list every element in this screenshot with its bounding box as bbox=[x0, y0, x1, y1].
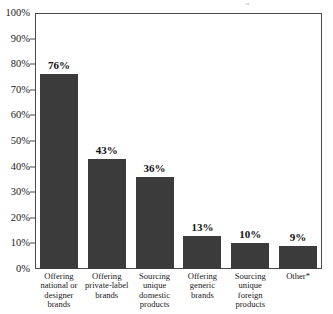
x-axis-category-label: Offeringnational ordesignerbrands bbox=[35, 272, 83, 309]
y-axis-tick-label: 90% bbox=[0, 33, 30, 44]
x-axis-category-label-line: products bbox=[131, 300, 179, 309]
bars-layer: 76%43%36%13%10%9% bbox=[35, 13, 322, 269]
x-axis-category-label: Other* bbox=[274, 272, 322, 281]
bar bbox=[40, 74, 78, 269]
bar-group: 13% bbox=[183, 13, 221, 269]
y-axis-labels: 100%90%80%70%60%50%40%30%20%10%0% bbox=[0, 0, 30, 314]
x-axis-category-labels: Offeringnational ordesignerbrandsOfferin… bbox=[35, 272, 322, 314]
bar-value-label: 9% bbox=[290, 232, 307, 243]
bar bbox=[136, 177, 174, 269]
x-axis-category-label-line: brands bbox=[35, 300, 83, 309]
cut-off-title-remnant: , , g bbox=[100, 0, 333, 5]
x-axis-category-label: Offeringgenericbrands bbox=[179, 272, 227, 300]
x-axis-category-label-line: brands bbox=[179, 291, 227, 300]
bar bbox=[183, 236, 221, 269]
bar-group: 76% bbox=[40, 13, 78, 269]
y-axis-tick-label: 80% bbox=[0, 59, 30, 70]
bar-chart: , , g 100%90%80%70%60%50%40%30%20%10%0% … bbox=[0, 0, 333, 314]
y-axis-tick-label: 50% bbox=[0, 136, 30, 147]
bar-group: 36% bbox=[136, 13, 174, 269]
x-axis-category-label-line: brands bbox=[83, 291, 131, 300]
x-axis-category-label: Sourcinguniquedomesticproducts bbox=[131, 272, 179, 309]
y-axis-tick-label: 30% bbox=[0, 187, 30, 198]
bar-value-label: 43% bbox=[96, 145, 118, 156]
x-axis-category-label-line: products bbox=[226, 300, 274, 309]
bar bbox=[231, 243, 269, 269]
bar bbox=[279, 246, 317, 269]
y-axis-tick-label: 0% bbox=[0, 264, 30, 275]
y-axis-tick-label: 20% bbox=[0, 213, 30, 224]
bar bbox=[88, 159, 126, 269]
x-axis-category-label-line: Other* bbox=[274, 272, 322, 281]
bar-value-label: 10% bbox=[239, 229, 261, 240]
y-axis-tick-label: 60% bbox=[0, 110, 30, 121]
x-axis-category-label: Offeringprivate-labelbrands bbox=[83, 272, 131, 300]
y-axis-tick-label: 10% bbox=[0, 238, 30, 249]
x-axis-category-label: Sourcinguniqueforeignproducts bbox=[226, 272, 274, 309]
y-axis-tick-label: 40% bbox=[0, 161, 30, 172]
y-axis-tick-label: 100% bbox=[0, 8, 30, 19]
y-axis-tick-label: 70% bbox=[0, 85, 30, 96]
bar-value-label: 76% bbox=[48, 60, 70, 71]
bar-value-label: 36% bbox=[144, 163, 166, 174]
bar-group: 10% bbox=[231, 13, 269, 269]
bar-group: 9% bbox=[279, 13, 317, 269]
bar-value-label: 13% bbox=[191, 222, 213, 233]
bar-group: 43% bbox=[88, 13, 126, 269]
